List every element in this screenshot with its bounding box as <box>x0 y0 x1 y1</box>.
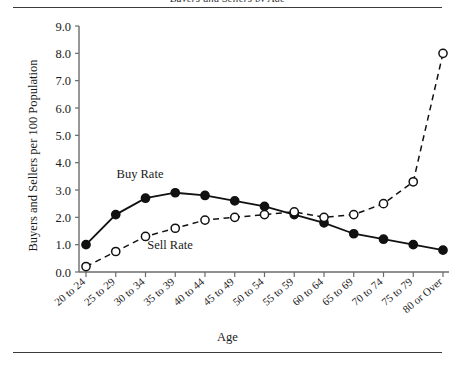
data-point <box>231 197 239 205</box>
data-point <box>409 241 417 249</box>
y-axis-title: Buyers and Sellers per 100 Population <box>26 31 41 281</box>
data-point <box>112 247 120 255</box>
y-tick-label: 4.0 <box>55 156 71 170</box>
data-point <box>409 178 417 186</box>
x-tick-label: 50 to 54 <box>230 275 266 308</box>
x-tick-label: 70 to 74 <box>349 275 385 308</box>
data-point <box>231 213 239 221</box>
y-tick-label: 1.0 <box>55 238 71 252</box>
x-tick-label: 40 to 44 <box>171 275 207 308</box>
y-tick-label: 0.0 <box>55 266 71 280</box>
y-tick-label: 6.0 <box>55 102 71 116</box>
x-tick-label: 35 to 39 <box>141 275 177 308</box>
data-point <box>82 262 90 270</box>
x-tick-label: 55 to 59 <box>260 275 296 308</box>
x-axis-title: Age <box>0 330 455 345</box>
x-tick-label: 45 to 49 <box>201 275 237 308</box>
sell-rate-label: Sell Rate <box>147 238 193 252</box>
data-point <box>439 49 447 57</box>
x-tick-label: 20 to 24 <box>52 275 88 308</box>
y-tick-label: 8.0 <box>55 47 71 61</box>
data-point <box>112 211 120 219</box>
data-point <box>379 200 387 208</box>
x-tick-label: 25 to 29 <box>82 275 118 308</box>
y-tick-label: 7.0 <box>55 74 71 88</box>
x-tick-label: 30 to 34 <box>111 275 147 308</box>
y-tick-label: 5.0 <box>55 129 71 143</box>
data-point <box>379 235 387 243</box>
data-point <box>201 216 209 224</box>
figure-container: Buyers and Sellers by Age 0.01.02.03.04.… <box>0 0 455 366</box>
y-tick-label: 2.0 <box>55 211 71 225</box>
y-tick-label: 3.0 <box>55 184 71 198</box>
data-point <box>439 246 447 254</box>
series-line-sell-rate <box>86 53 443 266</box>
data-point <box>350 211 358 219</box>
data-point <box>260 202 268 210</box>
data-point <box>171 224 179 232</box>
data-point <box>171 189 179 197</box>
x-tick-label: 65 to 69 <box>320 275 356 308</box>
series-line-buy-rate <box>86 193 443 250</box>
line-chart: 0.01.02.03.04.05.06.07.08.09.020 to 2425… <box>0 0 455 366</box>
data-point <box>82 241 90 249</box>
x-tick-label: 60 to 64 <box>290 275 326 308</box>
data-point <box>201 191 209 199</box>
y-tick-label: 9.0 <box>55 20 71 34</box>
data-point <box>260 211 268 219</box>
data-point <box>290 208 298 216</box>
data-point <box>141 194 149 202</box>
data-point <box>320 213 328 221</box>
buy-rate-label: Buy Rate <box>117 167 164 181</box>
data-point <box>350 230 358 238</box>
